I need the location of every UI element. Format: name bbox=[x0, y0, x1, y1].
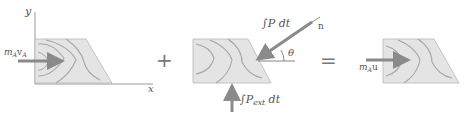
dt-symbol: dt bbox=[265, 93, 280, 106]
velocity-subscript: A bbox=[22, 51, 27, 58]
velocity-u-symbol: u bbox=[372, 62, 378, 72]
final-momentum-label: mAu bbox=[359, 63, 378, 73]
impulse-Pext-label: ∫Pext dt bbox=[240, 94, 280, 107]
impulse-P-label: ∫P dt bbox=[262, 18, 290, 29]
ext-subscript: ext bbox=[253, 98, 265, 107]
impulse-momentum-diagram: y x mAvA + ∫P dt n θ ∫Pext dt = mAu bbox=[0, 0, 464, 116]
angle-arc bbox=[281, 50, 284, 61]
angle-label: θ bbox=[288, 48, 294, 58]
x-axis-label: x bbox=[148, 84, 154, 94]
normal-label: n bbox=[318, 22, 324, 31]
initial-momentum-label: mAvA bbox=[4, 48, 27, 58]
integral-P-symbol: ∫P bbox=[240, 93, 253, 106]
mass-symbol: m bbox=[4, 47, 13, 57]
diagram-canvas bbox=[0, 0, 464, 116]
equals-operator: = bbox=[320, 50, 337, 70]
plus-operator: + bbox=[156, 50, 173, 70]
y-axis-label: y bbox=[25, 6, 31, 17]
mass-symbol: m bbox=[359, 62, 368, 72]
